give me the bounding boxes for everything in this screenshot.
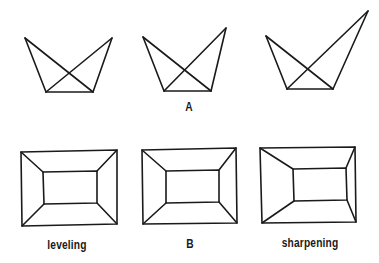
label-sharpening: sharpening [282, 236, 339, 250]
label-a: A [185, 100, 193, 114]
frame-leveling [21, 150, 117, 226]
frame-b [142, 148, 237, 224]
bowtie-center-a [143, 28, 226, 91]
frame-sharpening [260, 147, 356, 223]
label-b: B [186, 237, 194, 251]
bowtie-left [25, 38, 112, 92]
perception-figure [0, 0, 379, 263]
bowtie-right [266, 11, 368, 89]
label-leveling: leveling [47, 238, 86, 252]
